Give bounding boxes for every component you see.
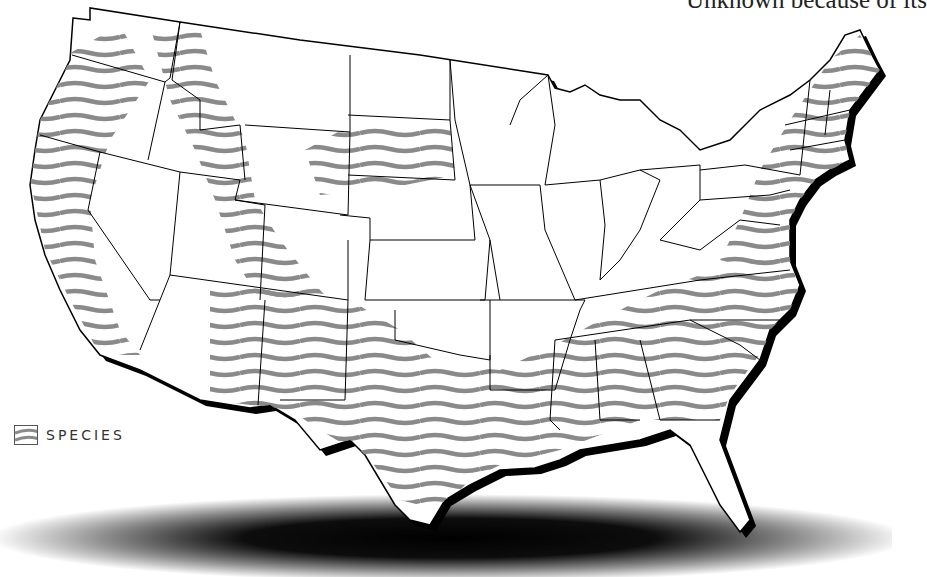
striped-swatch-icon: [14, 425, 38, 445]
legend: SPECIES: [14, 425, 125, 445]
legend-label: SPECIES: [46, 427, 125, 443]
